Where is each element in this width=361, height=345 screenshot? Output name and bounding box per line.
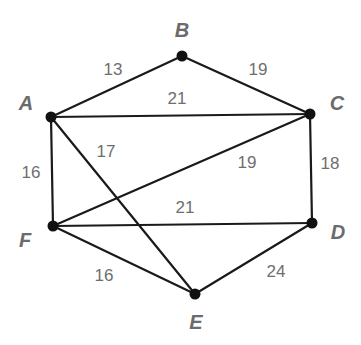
edge-weight-B-C: 19 <box>249 60 268 79</box>
edge-A-E <box>51 117 195 294</box>
edge-F-D <box>53 223 312 226</box>
edge-F-E <box>53 226 195 294</box>
vertex-E <box>190 289 201 300</box>
edge-weight-F-D: 21 <box>176 198 195 217</box>
edge-weight-C-D: 18 <box>321 154 340 173</box>
edge-B-C <box>182 56 310 114</box>
edge-weight-A-E: 17 <box>97 142 116 161</box>
vertex-D <box>307 218 318 229</box>
vertex-label-E: E <box>189 311 203 333</box>
edge-weight-F-C: 19 <box>238 153 257 172</box>
vertex-labels-group: ABCDEF <box>18 19 345 333</box>
vertex-label-F: F <box>19 229 32 251</box>
edge-weights-group: 13192116171918211624 <box>22 60 340 285</box>
vertex-label-A: A <box>18 92 33 114</box>
edge-weight-F-E: 16 <box>95 266 114 285</box>
edge-A-F <box>51 117 53 226</box>
edge-weight-A-F: 16 <box>22 163 41 182</box>
vertex-B <box>177 51 188 62</box>
vertex-F <box>48 221 59 232</box>
edge-weight-E-D: 24 <box>267 262 286 281</box>
vertex-label-B: B <box>175 19 189 41</box>
edge-weight-A-C: 21 <box>168 89 187 108</box>
vertex-C <box>305 109 316 120</box>
vertex-A <box>46 112 57 123</box>
edge-E-D <box>195 223 312 294</box>
edge-C-D <box>310 114 312 223</box>
edge-weight-A-B: 13 <box>104 60 123 79</box>
vertex-label-C: C <box>330 92 345 114</box>
weighted-graph-diagram: 13192116171918211624 ABCDEF <box>0 0 361 345</box>
edge-A-C <box>51 114 310 117</box>
vertex-label-D: D <box>331 221 345 243</box>
